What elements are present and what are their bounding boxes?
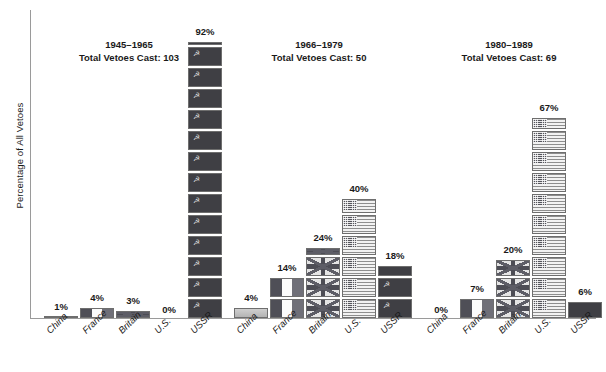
value-label-britain: 20%	[503, 244, 522, 255]
flag-unit-partial-britain	[306, 248, 340, 255]
hammer-sickle-icon	[193, 113, 200, 125]
country-stacks: 0%7%20%67%6%	[414, 0, 604, 318]
flag-unit-us	[532, 194, 566, 213]
hammer-sickle-icon	[193, 71, 200, 83]
value-label-ussr: 18%	[385, 250, 404, 261]
flag-unit-partial-us	[342, 199, 376, 213]
stars-canton-icon	[533, 132, 547, 142]
flag-unit-us	[342, 236, 376, 255]
veto-pictogram-chart: Percentage of All Vetoes 1945–1965Total …	[0, 0, 606, 372]
x-tick-labels: ChinaFranceBritainU.S.USSR	[414, 322, 604, 372]
flag-unit-partial-ussr	[378, 266, 412, 276]
hammer-sickle-icon	[193, 260, 200, 272]
flag-unit-ussr	[188, 236, 222, 255]
stars-canton-icon	[533, 195, 547, 205]
hammer-sickle-icon	[193, 302, 200, 314]
flag-unit-us	[532, 131, 566, 150]
flag-unit-ussr	[188, 215, 222, 234]
x-tick-labels: ChinaFranceBritainU.S.USSR	[34, 322, 224, 372]
hammer-sickle-icon	[193, 239, 200, 251]
hammer-sickle-icon	[193, 176, 200, 188]
flag-unit-partial-ussr	[188, 42, 222, 45]
stars-canton-icon	[343, 200, 357, 210]
flag-unit-ussr	[188, 173, 222, 192]
flag-unit-us	[532, 257, 566, 276]
flag-unit-ussr	[188, 152, 222, 171]
period-group-2: 1966–1979Total Vetoes Cast: 504%14%24%40…	[224, 0, 414, 372]
hammer-sickle-icon	[193, 218, 200, 230]
flag-unit-ussr	[188, 194, 222, 213]
country-stacks: 4%14%24%40%18%	[224, 0, 414, 318]
flag-unit-ussr	[188, 47, 222, 66]
flag-unit-us	[532, 152, 566, 171]
stars-canton-icon	[343, 279, 357, 289]
x-tick-labels: ChinaFranceBritainU.S.USSR	[224, 322, 414, 372]
hammer-sickle-icon	[193, 281, 200, 293]
value-label-china: 4%	[244, 292, 258, 303]
flag-unit-ussr	[188, 110, 222, 129]
hammer-sickle-icon	[193, 197, 200, 209]
union-jack-icon	[307, 249, 339, 254]
stars-canton-icon	[533, 153, 547, 163]
value-label-france: 4%	[90, 292, 104, 303]
stars-canton-icon	[533, 216, 547, 226]
hammer-sickle-icon	[383, 281, 390, 293]
period-group-3: 1980–1989Total Vetoes Cast: 690%7%20%67%…	[414, 0, 604, 372]
flag-unit-us	[342, 257, 376, 276]
value-label-france: 14%	[277, 262, 296, 273]
flag-unit-ussr	[188, 68, 222, 87]
flag-unit-us	[342, 215, 376, 234]
value-label-ussr: 6%	[578, 286, 592, 297]
flag-unit-britain	[306, 257, 340, 276]
stars-canton-icon	[533, 174, 547, 184]
y-axis-title: Percentage of All Vetoes	[14, 71, 25, 241]
value-label-britain: 24%	[313, 232, 332, 243]
hammer-sickle-icon	[383, 302, 390, 314]
stars-canton-icon	[533, 258, 547, 268]
y-axis-line	[30, 10, 31, 318]
value-label-us: 67%	[539, 102, 558, 113]
flag-unit-us	[532, 173, 566, 192]
hammer-sickle-icon	[193, 134, 200, 146]
flag-unit-ussr	[188, 131, 222, 150]
value-label-france: 7%	[470, 283, 484, 294]
stars-canton-icon	[533, 119, 547, 129]
stars-canton-icon	[533, 237, 547, 247]
flag-unit-us	[532, 215, 566, 234]
union-jack-icon	[497, 261, 529, 275]
value-label-us: 40%	[349, 183, 368, 194]
flag-unit-partial-britain	[496, 260, 530, 276]
union-jack-icon	[307, 258, 339, 275]
stars-canton-icon	[343, 258, 357, 268]
hammer-sickle-icon	[193, 92, 200, 104]
flag-unit-ussr	[188, 257, 222, 276]
flag-unit-us	[532, 236, 566, 255]
stars-canton-icon	[343, 237, 357, 247]
stars-canton-icon	[533, 279, 547, 289]
bar-us[interactable]: 67%	[530, 116, 568, 318]
hammer-sickle-icon	[193, 155, 200, 167]
flag-unit-partial-us	[532, 118, 566, 129]
bar-ussr[interactable]: 92%	[186, 40, 224, 318]
country-stacks: 1%4%3%0%92%	[34, 0, 224, 318]
value-label-ussr: 92%	[195, 26, 214, 37]
period-group-1: 1945–1965Total Vetoes Cast: 1031%4%3%0%9…	[34, 0, 224, 372]
flag-unit-ussr	[188, 89, 222, 108]
stars-canton-icon	[343, 216, 357, 226]
hammer-sickle-icon	[193, 50, 200, 62]
